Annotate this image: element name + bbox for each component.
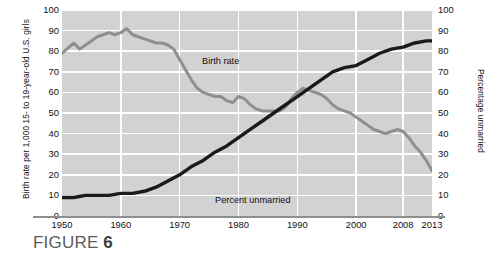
x-tick-label: 1980 xyxy=(228,219,249,230)
y-axis-left-title-text: Birth rate per 1,000 15- to 19-year-old … xyxy=(21,19,31,199)
y-tick-label: 50 xyxy=(33,108,59,118)
y-tick-label: 90 xyxy=(438,26,464,36)
y-tick-label: 80 xyxy=(438,46,464,56)
y-tick-label: 70 xyxy=(438,67,464,77)
figure-caption-subtext xyxy=(33,256,453,264)
y-tick-label: 90 xyxy=(33,26,59,36)
y-tick-label: 30 xyxy=(33,149,59,159)
series-line-percent-unmarried xyxy=(62,41,432,198)
y-axis-right-ticks: 0102030405060708090100 xyxy=(435,10,461,216)
x-tick-label: 2000 xyxy=(346,219,367,230)
y-axis-right-title-text: Percentage unmarried xyxy=(476,69,486,153)
series-line-birth-rate xyxy=(62,29,432,171)
x-tick-label: 1990 xyxy=(287,219,308,230)
y-tick-label: 20 xyxy=(438,170,464,180)
y-tick-label: 70 xyxy=(33,67,59,77)
figure-6-root: Birth rate per 1,000 15- to 19-year-old … xyxy=(0,0,490,264)
x-tick-label: 1950 xyxy=(52,219,73,230)
y-axis-left-ticks: 0102030405060708090100 xyxy=(33,10,59,216)
y-axis-left-title: Birth rate per 1,000 15- to 19-year-old … xyxy=(21,9,31,209)
series-label-percent-unmarried: Percent unmarried xyxy=(215,195,291,206)
y-tick-label: 100 xyxy=(438,5,464,15)
figure-caption-prefix: FIGURE xyxy=(33,233,103,252)
series-layer xyxy=(62,10,432,216)
y-tick-label: 20 xyxy=(33,170,59,180)
y-tick-label: 30 xyxy=(438,149,464,159)
x-tick-label: 1960 xyxy=(110,219,131,230)
x-tick-label: 2013 xyxy=(422,219,443,230)
y-tick-label: 10 xyxy=(438,190,464,200)
y-axis-right-title: Percentage unmarried xyxy=(476,16,486,206)
y-tick-label: 40 xyxy=(33,129,59,139)
figure-caption: FIGURE 6 xyxy=(33,233,113,253)
y-tick-label: 60 xyxy=(438,87,464,97)
y-tick-label: 80 xyxy=(33,46,59,56)
x-tick-label: 1970 xyxy=(169,219,190,230)
y-tick-label: 60 xyxy=(33,87,59,97)
series-label-birth-rate: Birth rate xyxy=(202,56,239,67)
plot-area: Birth rate Percent unmarried xyxy=(62,10,432,216)
x-axis-line xyxy=(33,216,445,218)
y-tick-label: 100 xyxy=(33,5,59,15)
y-tick-label: 50 xyxy=(438,108,464,118)
y-tick-label: 40 xyxy=(438,129,464,139)
chart-container: Birth rate per 1,000 15- to 19-year-old … xyxy=(0,0,490,228)
y-tick-label: 10 xyxy=(33,190,59,200)
figure-caption-number: 6 xyxy=(103,233,113,252)
x-tick-label: 2008 xyxy=(393,219,414,230)
